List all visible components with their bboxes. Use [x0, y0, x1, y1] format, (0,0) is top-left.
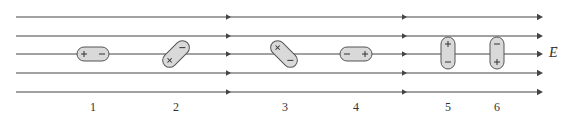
arrowhead-icon — [402, 70, 407, 76]
arrowhead-icon — [402, 51, 407, 57]
arrowhead-icon — [226, 14, 231, 20]
arrowhead-icon — [537, 33, 543, 40]
dipole-number-label: 5 — [445, 101, 451, 113]
dipole-1 — [77, 47, 109, 61]
arrowhead-icon — [402, 33, 407, 39]
field-line — [16, 89, 543, 96]
arrowhead-icon — [402, 14, 407, 20]
arrowhead-icon — [226, 89, 231, 95]
field-line — [16, 70, 543, 77]
dipole-number-label: 4 — [353, 101, 359, 113]
dipole-number-label: 3 — [282, 101, 288, 113]
field-line — [16, 33, 543, 40]
arrowhead-icon — [402, 89, 407, 95]
field-line — [16, 14, 543, 21]
electric-field-dipole-diagram: 123456 → E — [0, 0, 570, 127]
dipole-4 — [340, 47, 372, 61]
arrowhead-icon — [226, 70, 231, 76]
dipole-6 — [490, 37, 504, 69]
dipole-number-label: 6 — [494, 101, 500, 113]
dipole-5 — [441, 37, 455, 69]
arrowhead-icon — [537, 14, 543, 21]
arrowhead-icon — [537, 70, 543, 77]
arrowhead-icon — [226, 33, 231, 39]
arrowhead-icon — [537, 89, 543, 96]
vector-arrow-icon: → — [550, 42, 559, 51]
arrowhead-icon — [226, 51, 231, 57]
dipole-number-label: 1 — [90, 101, 96, 113]
field-label: → E — [549, 46, 558, 60]
dipole-number-label: 2 — [173, 101, 179, 113]
arrowhead-icon — [537, 51, 543, 58]
